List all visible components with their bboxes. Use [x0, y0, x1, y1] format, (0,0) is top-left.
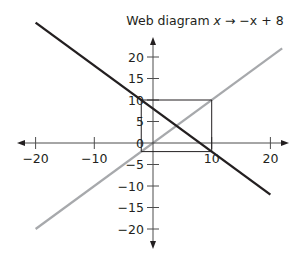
y-axis-up-arrow-icon: [150, 37, 156, 45]
x-axis-left-arrow-icon: [17, 140, 25, 146]
y-tick-label: 20: [128, 50, 144, 65]
web-diagram-figure: Web diagram x → −x + 8−20−101020−20−15−1…: [0, 0, 300, 262]
chart-title: Web diagram x → −x + 8: [126, 13, 283, 28]
x-tick-label: 20: [262, 151, 278, 166]
x-tick-label: −10: [81, 151, 107, 166]
identity-line: [36, 48, 283, 229]
y-tick-label: −20: [118, 222, 144, 237]
y-tick-label: 15: [128, 71, 144, 86]
y-tick-label: 0: [136, 136, 144, 151]
x-axis-right-arrow-icon: [281, 140, 289, 146]
y-axis-down-arrow-icon: [150, 241, 156, 249]
y-tick-label: −15: [118, 200, 144, 215]
y-tick-label: −10: [118, 179, 144, 194]
y-tick-label: 5: [136, 114, 144, 129]
x-tick-label: 10: [204, 151, 220, 166]
x-tick-label: −20: [22, 151, 48, 166]
plot-area: Web diagram x → −x + 8−20−101020−20−15−1…: [0, 0, 300, 262]
y-tick-label: −5: [126, 157, 144, 172]
